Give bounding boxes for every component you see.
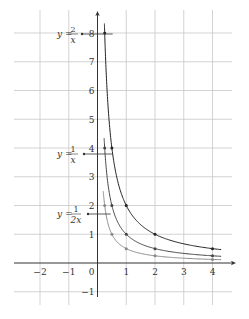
label-denominator: x	[70, 35, 75, 45]
y-tick-label: 5	[89, 115, 95, 125]
curve-label: y =12x	[56, 205, 111, 225]
data-point	[110, 233, 113, 236]
data-point	[211, 247, 214, 250]
data-point	[103, 147, 106, 150]
curve-12x	[103, 191, 221, 260]
curve-2x	[104, 23, 221, 249]
x-tick-label: 3	[181, 267, 187, 277]
x-tick-label: 1	[123, 267, 129, 277]
data-point	[110, 147, 113, 150]
data-point	[125, 247, 128, 250]
data-point	[154, 254, 157, 257]
curve-labels: y =2xy =1xy =12x	[56, 25, 113, 225]
data-point	[125, 204, 128, 207]
axes	[14, 11, 236, 297]
y-tick-label: 2	[89, 201, 95, 211]
data-point	[154, 233, 157, 236]
data-point	[211, 258, 214, 261]
x-tick-label: 2	[152, 267, 158, 277]
data-point	[110, 204, 113, 207]
tick-labels: −2−101234−112345678	[33, 29, 215, 298]
data-point	[154, 247, 157, 250]
y-tick-label: 6	[89, 86, 95, 96]
y-tick-label: 4	[89, 144, 95, 154]
y-tick-label: 8	[89, 29, 95, 39]
y-tick-label: 7	[89, 57, 95, 67]
label-numerator: 1	[70, 145, 75, 154]
label-numerator: 1	[73, 205, 78, 214]
x-tick-label: 4	[210, 267, 216, 277]
x-tick-label: 0	[89, 267, 95, 277]
data-point	[103, 204, 106, 207]
label-denominator: x	[70, 155, 75, 165]
data-point	[211, 254, 214, 257]
y-tick-label: −1	[81, 287, 94, 297]
label-denominator: 2x	[70, 215, 82, 225]
label-numerator: 2	[70, 25, 75, 34]
grid	[14, 10, 232, 305]
y-tick-label: 1	[89, 230, 95, 240]
hyperbola-chart: −2−101234−112345678 y =2xy =1xy =12x	[0, 0, 249, 319]
y-tick-label: 3	[89, 172, 95, 182]
data-point	[125, 233, 128, 236]
curves	[103, 23, 221, 260]
curve-1x	[104, 138, 221, 256]
x-tick-label: −1	[62, 267, 75, 277]
x-tick-label: −2	[33, 267, 46, 277]
